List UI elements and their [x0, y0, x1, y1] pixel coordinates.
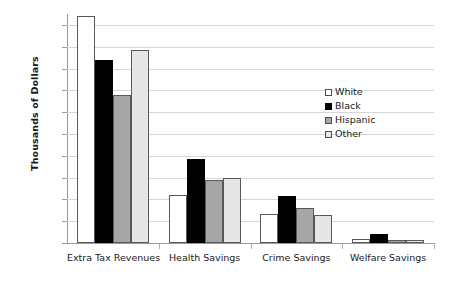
bar-black[interactable]: [187, 159, 205, 243]
bar-hispanic[interactable]: [205, 180, 223, 243]
bar-white[interactable]: [352, 239, 370, 243]
x-tick-mark: [251, 244, 252, 249]
bar-chart: Thousands of Dollars 0153045607590105120…: [0, 0, 449, 281]
x-category-label: Welfare Savings: [342, 252, 434, 263]
bar-white[interactable]: [169, 195, 187, 243]
bar-other[interactable]: [314, 215, 332, 243]
x-category-label: Health Savings: [159, 252, 251, 263]
legend: White Black Hispanic Other: [325, 86, 375, 140]
x-category-label: Extra Tax Revenues: [67, 252, 159, 263]
bar-hispanic[interactable]: [388, 240, 406, 243]
legend-item-other[interactable]: Other: [325, 128, 375, 140]
bar-white[interactable]: [77, 16, 95, 243]
legend-item-white[interactable]: White: [325, 86, 375, 98]
x-tick-mark: [342, 244, 343, 249]
x-tick-mark: [434, 244, 435, 249]
legend-label-other: Other: [335, 129, 362, 139]
bar-white[interactable]: [260, 214, 278, 243]
y-tick-mark: [62, 243, 67, 244]
bar-other[interactable]: [223, 178, 241, 243]
plot-area: [67, 14, 434, 243]
bar-group: [159, 14, 251, 243]
legend-swatch-black-icon: [325, 103, 332, 110]
y-axis-title: Thousands of Dollars: [29, 24, 40, 204]
legend-item-hispanic[interactable]: Hispanic: [325, 114, 375, 126]
x-tick-mark: [159, 244, 160, 249]
bar-other[interactable]: [406, 240, 424, 243]
bar-black[interactable]: [370, 234, 388, 243]
bar-black[interactable]: [95, 60, 113, 243]
bar-group: [67, 14, 159, 243]
legend-item-black[interactable]: Black: [325, 100, 375, 112]
bar-hispanic[interactable]: [296, 208, 314, 243]
legend-swatch-white-icon: [325, 89, 332, 96]
legend-swatch-hispanic-icon: [325, 117, 332, 124]
legend-label-black: Black: [335, 101, 361, 111]
legend-swatch-other-icon: [325, 131, 332, 138]
legend-label-hispanic: Hispanic: [335, 115, 375, 125]
bar-hispanic[interactable]: [113, 95, 131, 243]
x-category-label: Crime Savings: [251, 252, 343, 263]
bar-other[interactable]: [131, 50, 149, 243]
bar-black[interactable]: [278, 196, 296, 243]
legend-label-white: White: [335, 87, 363, 97]
